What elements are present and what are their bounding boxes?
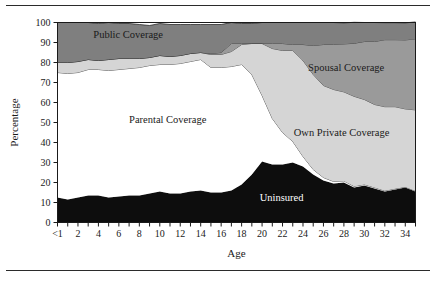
- series-label-own-private-coverage: Own Private Coverage: [294, 127, 390, 138]
- x-axis-title: Age: [227, 247, 245, 259]
- x-tick-label: 12: [175, 228, 185, 239]
- y-tick-label: 70: [41, 77, 51, 88]
- x-tick-label: 30: [359, 228, 369, 239]
- y-tick-label: 90: [41, 37, 51, 48]
- x-tick-label: 20: [257, 228, 267, 239]
- y-tick-label: 40: [41, 137, 51, 148]
- y-tick-label: 100: [36, 17, 51, 28]
- y-tick-label: 60: [41, 97, 51, 108]
- x-tick-label: 22: [278, 228, 288, 239]
- series-label-uninsured: Uninsured: [260, 192, 304, 203]
- x-tick-label: 10: [155, 228, 165, 239]
- stacked-area-chart: 0102030405060708090100<12468101214161820…: [0, 0, 436, 284]
- series-label-public-coverage: Public Coverage: [93, 29, 163, 40]
- x-tick-label: 4: [96, 228, 101, 239]
- x-tick-label: 14: [196, 228, 206, 239]
- series-label-parental-coverage: Parental Coverage: [129, 114, 207, 125]
- y-tick-label: 50: [41, 117, 51, 128]
- figure-container: 0102030405060708090100<12468101214161820…: [0, 0, 436, 284]
- x-tick-label: 18: [237, 228, 247, 239]
- y-tick-label: 20: [41, 177, 51, 188]
- x-tick-label: 32: [380, 228, 390, 239]
- x-tick-label: 6: [116, 228, 121, 239]
- x-tick-label: <1: [52, 228, 63, 239]
- x-axis: <1246810121416182022242628303234: [52, 223, 415, 240]
- y-tick-label: 30: [41, 157, 51, 168]
- y-tick-label: 10: [41, 197, 51, 208]
- x-tick-label: 24: [298, 228, 308, 239]
- x-tick-label: 34: [400, 228, 410, 239]
- x-tick-label: 2: [75, 228, 80, 239]
- y-axis-title: Percentage: [8, 98, 20, 146]
- chart-bands: [58, 22, 416, 223]
- x-tick-label: 8: [137, 228, 142, 239]
- x-tick-label: 26: [318, 228, 328, 239]
- y-tick-label: 80: [41, 57, 51, 68]
- series-label-spousal-coverage: Spousal Coverage: [308, 62, 384, 73]
- x-tick-label: 28: [339, 228, 349, 239]
- y-axis: 0102030405060708090100: [36, 17, 58, 228]
- y-tick-label: 0: [46, 217, 51, 228]
- x-tick-label: 16: [216, 228, 226, 239]
